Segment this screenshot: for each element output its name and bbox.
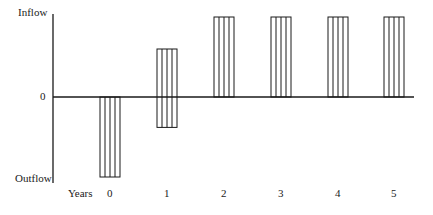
bar-year-3 [271,17,291,97]
bar-year-5 [384,17,404,97]
x-tick-label: 3 [278,187,284,199]
x-tick-label: 5 [391,187,397,199]
bar-year-4 [328,17,348,97]
bar-year-2 [214,17,234,97]
x-tick-label: 2 [221,187,227,199]
x-axis-title: Years [68,187,93,199]
x-tick-label: 4 [335,187,341,199]
zero-label: 0 [40,90,46,102]
cash-flow-diagram [0,0,433,215]
bar-year-1 [157,49,177,127]
bar-year-0 [100,97,120,177]
x-tick-label: 0 [107,187,113,199]
outflow-label: Outflow [15,172,52,184]
inflow-label: Inflow [18,6,47,18]
x-tick-label: 1 [164,187,170,199]
